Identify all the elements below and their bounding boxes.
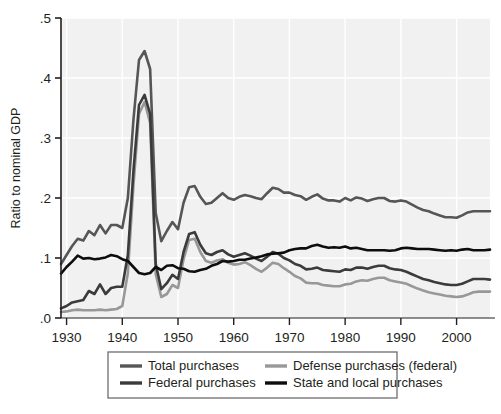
legend-label: State and local purchases xyxy=(293,375,443,390)
x-tick-label: 1940 xyxy=(107,330,137,345)
y-tick-label: .5 xyxy=(40,11,51,26)
chart-figure: .0.1.2.3.4.5 193019401950196019701980199… xyxy=(0,0,501,414)
y-axis-label: Ratio to nominal GDP xyxy=(9,108,23,229)
x-tick-label: 2000 xyxy=(442,330,472,345)
x-tick-label: 1950 xyxy=(163,330,193,345)
y-tick-label: .2 xyxy=(40,191,51,206)
x-tick-label: 1980 xyxy=(330,330,360,345)
y-tick-label: .3 xyxy=(40,131,51,146)
legend-label: Total purchases xyxy=(148,358,240,373)
x-tick-label: 1990 xyxy=(386,330,416,345)
x-tick-label: 1960 xyxy=(219,330,249,345)
x-tick-label: 1970 xyxy=(274,330,304,345)
y-tick-label: .1 xyxy=(40,251,51,266)
y-tick-label: .0 xyxy=(40,311,51,326)
legend-label: Federal purchases xyxy=(148,375,256,390)
x-tick-label: 1930 xyxy=(52,330,82,345)
legend-label: Defense purchases (federal) xyxy=(293,358,457,373)
gdp-ratio-line-chart: .0.1.2.3.4.5 193019401950196019701980199… xyxy=(0,0,501,414)
y-tick-label: .4 xyxy=(40,71,52,86)
